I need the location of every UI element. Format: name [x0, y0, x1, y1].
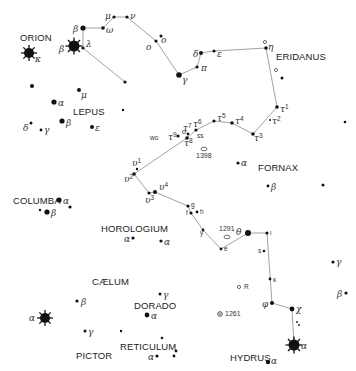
star-letter-label: f	[186, 209, 188, 216]
sky-map: ORIONLEPUSERIDANUSFORNAXCOLUMBAHOROLOGIU…	[0, 0, 356, 371]
star-icon	[199, 51, 203, 55]
star-icon	[112, 15, 115, 18]
star-designation-label: τ7	[183, 122, 192, 133]
star-designation-label: α	[148, 352, 154, 362]
bright-star-icon	[37, 310, 53, 326]
star-icon	[122, 109, 124, 111]
deep-sky-objects	[182, 40, 277, 316]
star-icon	[159, 239, 162, 242]
star-designation-label: γ	[88, 327, 94, 337]
star-designation-label: ν	[130, 11, 136, 21]
star-icon	[120, 330, 122, 332]
star-icon	[30, 122, 33, 125]
star-icon	[275, 105, 279, 109]
star-icon	[40, 129, 43, 132]
star-icon	[187, 133, 190, 136]
star-icon	[195, 65, 198, 68]
star-icon	[331, 260, 334, 263]
star-designation-label: χ	[295, 304, 302, 314]
star-designation-label: γ	[336, 257, 342, 267]
star-icon	[265, 231, 268, 234]
star-designation-label: η	[268, 42, 274, 52]
star-icon	[173, 355, 176, 358]
ngc-label: 1291	[219, 225, 235, 232]
star-designation-label: θ	[236, 227, 242, 237]
star-designation-label: β	[336, 289, 342, 299]
star-designation-label: τ1	[280, 103, 289, 114]
star-icon	[161, 337, 164, 340]
star-designation-label: ω	[106, 25, 114, 35]
ngc-label: 1261	[225, 310, 241, 317]
star-icon	[145, 313, 150, 318]
star-icon	[176, 72, 182, 78]
star-designation-label: τ5	[217, 112, 226, 123]
star-icon	[196, 211, 199, 214]
star-letter-label: R	[244, 283, 249, 290]
star-icon	[220, 248, 223, 251]
star-icon	[131, 236, 134, 239]
star-designation-label: υ3	[145, 194, 154, 205]
nebula-icon	[263, 40, 266, 43]
star-icon	[101, 26, 105, 30]
star-designation-label: β	[50, 208, 56, 218]
galaxy-icon	[201, 147, 207, 151]
star-icon	[155, 354, 158, 357]
star-icon	[267, 185, 270, 188]
star-letter-label: κ	[273, 276, 277, 283]
star-icon	[75, 299, 78, 302]
star-designation-label: π	[200, 63, 208, 73]
star-designation-label: α	[241, 158, 247, 168]
star-icon	[189, 211, 192, 214]
star-letter-label: h	[200, 208, 204, 215]
star-icon	[296, 321, 298, 323]
bright-star-icon	[286, 337, 303, 354]
star-designation-label: λ	[85, 39, 92, 49]
star-letter-label: s	[258, 247, 262, 254]
star-designation-label: τ4	[235, 115, 244, 126]
star-icon	[81, 46, 84, 49]
star-designation-label: α	[151, 311, 157, 321]
star-designation-label: τ2	[272, 115, 281, 126]
labels: ORIONLEPUSERIDANUSFORNAXCOLUMBAHOROLOGIU…	[13, 11, 342, 366]
star-designation-label: κ	[34, 54, 41, 64]
constellation-line	[83, 28, 125, 82]
constellation-label: ERIDANUS	[276, 51, 326, 62]
star-designation-label: γ	[44, 125, 50, 135]
star-letter-label: ss	[197, 132, 204, 139]
star-icon	[344, 291, 347, 294]
star-designation-label: υ1	[132, 157, 141, 168]
star-designation-label: α	[29, 313, 35, 323]
star-designation-label: ο	[146, 42, 152, 52]
star-letter-label: ι	[270, 229, 272, 236]
constellation-lines	[83, 17, 294, 345]
star-letter-label: g	[191, 201, 195, 209]
star-icon	[30, 84, 34, 88]
star-designation-label: ε	[95, 123, 100, 133]
constellation-label: RETICULUM	[120, 341, 176, 352]
star-designation-label: α	[63, 196, 69, 206]
star-designation-label: δ	[193, 49, 198, 59]
galaxy-icon	[224, 235, 230, 239]
star-icon	[281, 77, 284, 80]
star-designation-label: β	[270, 182, 276, 192]
star-icon	[245, 230, 251, 236]
star-designation-label: β	[58, 44, 64, 54]
star-icon	[59, 118, 64, 123]
star-icon	[290, 307, 295, 312]
star-designation-label: β	[80, 297, 86, 307]
star-icon	[84, 330, 87, 333]
star-designation-label: α	[124, 234, 130, 244]
star-icon	[44, 209, 49, 214]
star-icon	[230, 121, 234, 125]
constellation-label: PICTOR	[76, 350, 112, 361]
star-designation-label: υ2	[124, 173, 133, 184]
star-icon	[270, 301, 274, 305]
constellation-label: FORNAX	[258, 162, 299, 173]
star-designation-label: μ	[105, 11, 111, 21]
bright-star-icon	[66, 38, 83, 55]
star-designation-label: υ4	[159, 181, 168, 192]
star-icon	[39, 209, 41, 211]
ngc-label: 1398	[196, 152, 212, 159]
constellation-label: COLUMBA	[13, 195, 61, 206]
star-icon	[51, 99, 56, 104]
